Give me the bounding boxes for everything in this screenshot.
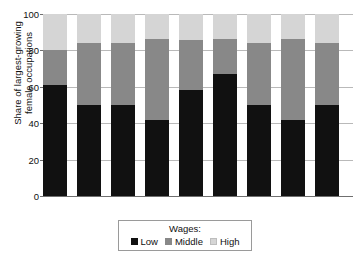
- plot-area: 020406080100: [43, 14, 353, 196]
- y-tick-label-40: 40: [28, 118, 39, 129]
- bar-segment-2010-low: [315, 105, 339, 196]
- bar-segment-1994-high: [43, 14, 67, 50]
- bar-segment-1994-middle: [43, 50, 67, 85]
- bar-segment-2000-high: [145, 14, 169, 39]
- bar-1994: [43, 14, 67, 196]
- bar-segment-2000-middle: [145, 39, 169, 119]
- legend-swatch-high: [210, 238, 217, 245]
- legend-label-middle: Middle: [175, 236, 203, 247]
- y-axis-label: Share of largest-growing female occupati…: [12, 0, 34, 158]
- y-tick-label-100: 100: [23, 9, 39, 20]
- bar-2006: [247, 14, 271, 196]
- legend-swatch-low: [131, 238, 138, 245]
- legend-swatch-middle: [165, 238, 172, 245]
- chart-legend: Wages: LowMiddleHigh: [118, 220, 252, 251]
- legend-label-high: High: [220, 236, 240, 247]
- bar-segment-2004-low: [213, 74, 237, 196]
- bar-2002: [179, 14, 203, 196]
- legend-item-middle[interactable]: Middle: [165, 236, 203, 247]
- legend-label-low: Low: [141, 236, 158, 247]
- legend-title: Wages:: [123, 223, 247, 235]
- bar-segment-2008-middle: [281, 39, 305, 119]
- bar-1996: [77, 14, 101, 196]
- y-tick-label-80: 80: [28, 45, 39, 56]
- legend-item-low[interactable]: Low: [131, 236, 158, 247]
- bar-segment-2006-low: [247, 105, 271, 196]
- x-tick-label-2010: 2010: [307, 186, 347, 197]
- bar-segment-1994-low: [43, 85, 67, 196]
- y-tick-label-60: 60: [28, 81, 39, 92]
- bar-group: [43, 14, 353, 196]
- bar-segment-2008-high: [281, 14, 305, 39]
- legend-item-high[interactable]: High: [210, 236, 240, 247]
- bar-segment-2008-low: [281, 120, 305, 196]
- bar-segment-1996-high: [77, 14, 101, 43]
- bar-2008: [281, 14, 305, 196]
- bar-segment-2004-high: [213, 14, 237, 39]
- bar-segment-2000-low: [145, 120, 169, 196]
- bar-segment-2010-high: [315, 14, 339, 43]
- bar-2004: [213, 14, 237, 196]
- chart-container: Share of largest-growing female occupati…: [0, 0, 357, 253]
- bar-segment-2002-middle: [179, 40, 203, 91]
- bar-segment-2006-middle: [247, 43, 271, 105]
- bar-segment-2006-high: [247, 14, 271, 43]
- bar-segment-1996-low: [77, 105, 101, 196]
- bar-segment-2010-middle: [315, 43, 339, 105]
- bar-segment-2004-middle: [213, 39, 237, 74]
- bar-segment-1998-middle: [111, 43, 135, 105]
- bar-segment-2002-high: [179, 14, 203, 39]
- bar-segment-2002-low: [179, 90, 203, 196]
- bar-segment-1998-high: [111, 14, 135, 43]
- bar-segment-1996-middle: [77, 43, 101, 105]
- bar-2000: [145, 14, 169, 196]
- legend-entries: LowMiddleHigh: [123, 236, 247, 247]
- y-tick-label-20: 20: [28, 154, 39, 165]
- bar-1998: [111, 14, 135, 196]
- bar-2010: [315, 14, 339, 196]
- bar-segment-1998-low: [111, 105, 135, 196]
